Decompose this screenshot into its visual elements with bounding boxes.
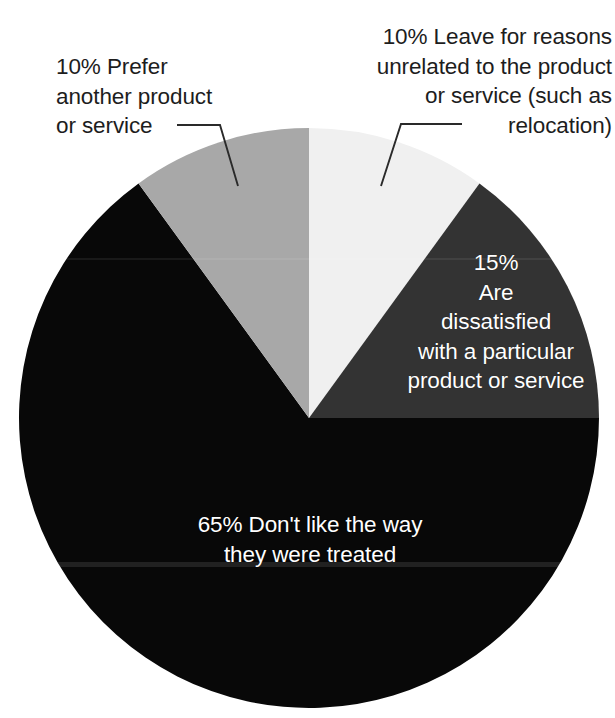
callout-label-prefer: 10% Prefer another product or service (56, 52, 286, 141)
pie-chart: 10% Prefer another product or service 10… (0, 0, 615, 718)
callout-label-unrelated: 10% Leave for reasons unrelated to the p… (330, 22, 612, 140)
slice-label-dissatisfied: 15% Are dissatisfied with a particular p… (385, 248, 607, 396)
slice-label-treated: 65% Don't like the way they were treated (120, 510, 500, 569)
